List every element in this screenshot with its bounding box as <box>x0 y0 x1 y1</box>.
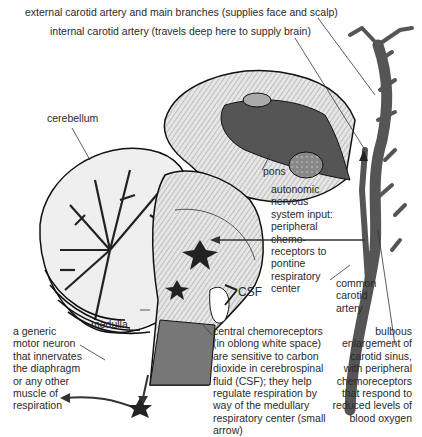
label-common-carotid: common carotid artery <box>336 277 376 314</box>
label-pons: pons <box>263 165 286 177</box>
label-csf: CSF <box>238 286 262 298</box>
pons-oval <box>289 152 323 178</box>
label-cerebellum: cerebellum <box>47 112 98 124</box>
label-central-chemoreceptors: central chemoreceptors (in oblong white … <box>213 325 326 437</box>
motor-neuron-star <box>128 398 152 418</box>
label-medulla: medulla <box>91 318 128 330</box>
label-autonomic-input: autonomic nervous system input: peripher… <box>271 183 333 295</box>
label-motor-neuron: a generic motor neuron that innervates t… <box>13 325 82 412</box>
label-external-carotid: external carotid artery and main branche… <box>25 6 338 18</box>
label-carotid-sinus: bulbous enlargement of carotid sinus, wi… <box>333 325 412 424</box>
label-internal-carotid: internal carotid artery (travels deep he… <box>50 25 311 37</box>
